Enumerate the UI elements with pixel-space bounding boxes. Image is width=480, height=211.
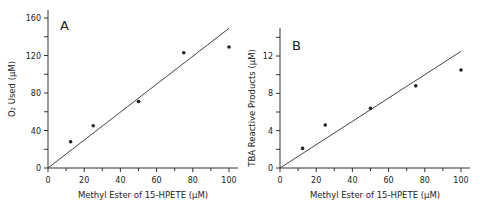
regression-line [48, 28, 229, 168]
x-tick-label: 80 [420, 176, 430, 185]
panel-a-chart: 02040608010004080120160AMethyl Ester of … [7, 10, 238, 200]
data-point [369, 106, 373, 110]
x-tick-label: 0 [277, 176, 282, 185]
data-point [323, 123, 327, 127]
y-tick-label: 0 [36, 164, 41, 173]
x-tick-label: 40 [347, 176, 357, 185]
y-tick-label: 120 [26, 52, 41, 61]
x-tick-label: 0 [45, 176, 50, 185]
data-point [137, 100, 141, 104]
panel-b-chart: 02040608010004812BMethyl Ester of 15-HPE… [247, 28, 470, 200]
x-tick-label: 60 [384, 176, 394, 185]
y-tick-label: 80 [31, 89, 41, 98]
panel-label: B [292, 38, 301, 53]
x-axis-label: Methyl Ester of 15-HPETE (μM) [78, 190, 208, 200]
y-axis-label: TBA Reactive Products (μM) [247, 49, 257, 168]
x-tick-label: 100 [453, 176, 468, 185]
y-tick-label: 40 [31, 127, 41, 136]
x-axis-label: Methyl Ester of 15-HPETE (μM) [310, 190, 440, 200]
y-tick-label: 0 [268, 164, 273, 173]
y-tick-label: 12 [263, 52, 273, 61]
x-tick-label: 100 [221, 176, 236, 185]
x-tick-label: 80 [188, 176, 198, 185]
y-tick-label: 8 [268, 89, 273, 98]
data-point [91, 124, 95, 128]
y-tick-label: 160 [26, 14, 41, 23]
y-axis-label: O₂ Used (μM) [7, 61, 17, 117]
x-tick-label: 20 [311, 176, 321, 185]
data-point [414, 84, 418, 88]
figure: 02040608010004080120160AMethyl Ester of … [0, 0, 480, 211]
data-point [182, 51, 186, 55]
data-point [69, 140, 73, 144]
data-point [459, 68, 463, 72]
x-tick-label: 60 [152, 176, 162, 185]
panel-label: A [60, 18, 69, 33]
x-tick-label: 20 [79, 176, 89, 185]
data-point [301, 147, 305, 151]
x-tick-label: 40 [115, 176, 125, 185]
data-point [227, 45, 231, 49]
y-tick-label: 4 [268, 127, 273, 136]
